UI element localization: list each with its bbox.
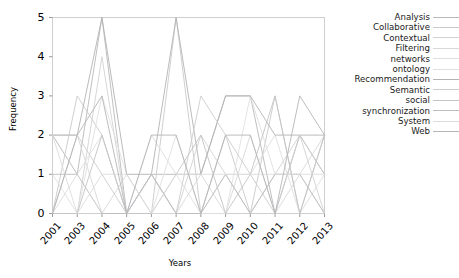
y-axis-label: Frequency: [8, 79, 18, 139]
legend-item-label: Filtering: [395, 43, 433, 53]
legend-item-label: System: [398, 116, 433, 126]
legend-color-swatch: [433, 89, 459, 90]
legend-color-swatch: [433, 37, 459, 38]
legend-item[interactable]: Recommendation: [333, 74, 459, 84]
legend-color-swatch: [433, 69, 459, 70]
chart-legend: AnalysisCollaborativeContextualFiltering…: [333, 12, 459, 137]
y-tick-label: 2: [31, 128, 45, 141]
legend-item[interactable]: Web: [333, 126, 459, 136]
legend-color-swatch: [433, 27, 459, 28]
legend-item-label: networks: [391, 54, 433, 64]
legend-item[interactable]: ontology: [333, 64, 459, 74]
series-line: [53, 18, 325, 175]
y-tick-label: 4: [31, 50, 45, 63]
y-tick-label: 1: [31, 167, 45, 180]
legend-item[interactable]: Contextual: [333, 33, 459, 43]
legend-item[interactable]: System: [333, 116, 459, 126]
legend-item-label: Collaborative: [373, 22, 433, 32]
legend-item[interactable]: Semantic: [333, 85, 459, 95]
legend-item-label: Recommendation: [354, 74, 433, 84]
legend-item-label: Web: [411, 126, 433, 136]
legend-color-swatch: [433, 58, 459, 59]
legend-item[interactable]: Filtering: [333, 43, 459, 53]
y-tick-label: 0: [31, 207, 45, 220]
line-chart-figure: Frequency Years 012345 20012003200420052…: [0, 0, 459, 278]
y-tick-marks: [49, 18, 53, 214]
legend-color-swatch: [433, 110, 459, 111]
legend-color-swatch: [433, 100, 459, 101]
series-lines: [53, 18, 325, 214]
x-axis-label: Years: [135, 258, 225, 268]
legend-item-label: Contextual: [383, 33, 433, 43]
legend-color-swatch: [433, 121, 459, 122]
legend-item-label: ontology: [392, 64, 433, 74]
legend-color-swatch: [433, 131, 459, 132]
legend-item[interactable]: networks: [333, 54, 459, 64]
legend-item-label: Semantic: [390, 85, 433, 95]
legend-color-swatch: [433, 48, 459, 49]
y-tick-label: 5: [31, 11, 45, 24]
legend-item-label: social: [405, 95, 433, 105]
legend-item-label: Analysis: [395, 12, 433, 22]
legend-item-label: synchronization: [362, 106, 433, 116]
x-tick-marks: [53, 214, 325, 218]
legend-item[interactable]: Analysis: [333, 12, 459, 22]
legend-item[interactable]: social: [333, 95, 459, 105]
series-line: [53, 18, 325, 214]
legend-item[interactable]: Collaborative: [333, 22, 459, 32]
legend-color-swatch: [433, 17, 459, 18]
y-tick-label: 3: [31, 89, 45, 102]
legend-color-swatch: [433, 79, 459, 80]
legend-item[interactable]: synchronization: [333, 106, 459, 116]
